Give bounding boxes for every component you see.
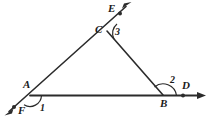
dot-D bbox=[181, 94, 185, 98]
geometry-diagram: A B C D E F 1 2 3 bbox=[0, 0, 208, 120]
angle-label-3: 3 bbox=[115, 27, 120, 37]
angle-label-2: 2 bbox=[170, 75, 175, 85]
point-label-E: E bbox=[108, 3, 115, 14]
point-label-F: F bbox=[18, 105, 25, 116]
point-label-C: C bbox=[95, 24, 102, 35]
point-label-B: B bbox=[160, 98, 167, 109]
angle-arc-1 bbox=[24, 96, 42, 107]
angle-label-1: 1 bbox=[40, 103, 45, 113]
point-label-A: A bbox=[23, 79, 30, 90]
arrowhead-E bbox=[122, 2, 132, 9]
figure-svg bbox=[0, 0, 208, 120]
point-label-D: D bbox=[182, 80, 190, 91]
dot-E bbox=[118, 12, 122, 16]
side-CB bbox=[107, 31, 163, 95]
arrowhead-F bbox=[5, 109, 14, 116]
dot-F bbox=[12, 105, 16, 109]
arrowhead-right bbox=[197, 92, 206, 99]
